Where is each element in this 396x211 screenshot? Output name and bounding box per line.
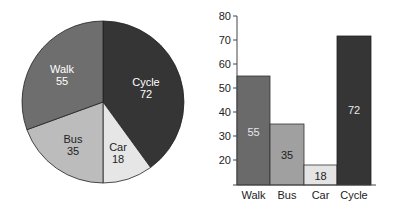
y-ticks <box>233 16 237 160</box>
pie-label-bus-name: Bus <box>64 133 83 145</box>
y-tick-label-30: 30 <box>219 130 231 142</box>
bar-chart: 80 70 60 50 40 30 20 55 35 18 72 Walk Bu… <box>219 10 376 201</box>
x-label-cycle: Cycle <box>340 189 368 201</box>
chart-canvas: Cycle 72 Car 18 Bus 35 Walk 55 80 70 60 … <box>0 0 396 211</box>
y-tick-label-70: 70 <box>219 34 231 46</box>
y-tick-label-60: 60 <box>219 58 231 70</box>
x-label-bus: Bus <box>278 189 297 201</box>
pie-label-car-value: 18 <box>112 153 124 165</box>
bar-value-bus: 35 <box>281 149 293 161</box>
y-tick-label-50: 50 <box>219 82 231 94</box>
pie-label-walk-value: 55 <box>56 75 68 87</box>
y-tick-label-40: 40 <box>219 106 231 118</box>
x-label-car: Car <box>312 189 330 201</box>
pie-label-walk-name: Walk <box>50 63 75 75</box>
bar-value-walk: 55 <box>247 126 259 138</box>
x-label-walk: Walk <box>241 189 266 201</box>
pie-label-car-name: Car <box>109 141 127 153</box>
pie-label-cycle-name: Cycle <box>132 76 160 88</box>
pie-label-cycle-value: 72 <box>140 88 152 100</box>
pie-chart: Cycle 72 Car 18 Bus 35 Walk 55 <box>22 21 184 183</box>
bar-value-car: 18 <box>314 170 326 182</box>
y-tick-label-80: 80 <box>219 10 231 22</box>
y-tick-label-20: 20 <box>219 154 231 166</box>
pie-label-bus-value: 35 <box>67 145 79 157</box>
bar-value-cycle: 72 <box>348 104 360 116</box>
